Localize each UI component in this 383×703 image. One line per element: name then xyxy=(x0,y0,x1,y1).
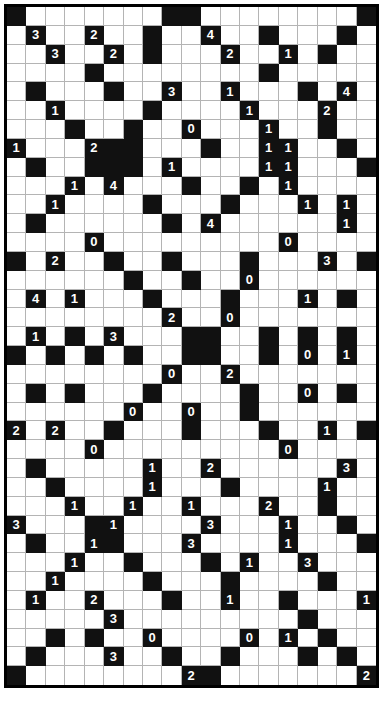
puzzle-empty-cell[interactable] xyxy=(143,403,162,422)
puzzle-empty-cell[interactable] xyxy=(240,572,259,591)
puzzle-empty-cell[interactable] xyxy=(143,534,162,553)
puzzle-empty-cell[interactable] xyxy=(182,459,201,478)
puzzle-empty-cell[interactable] xyxy=(298,233,317,252)
puzzle-empty-cell[interactable] xyxy=(201,572,220,591)
puzzle-clue-cell[interactable]: 2 xyxy=(85,591,104,610)
puzzle-empty-cell[interactable] xyxy=(221,327,240,346)
puzzle-empty-cell[interactable] xyxy=(162,497,181,516)
puzzle-empty-cell[interactable] xyxy=(85,214,104,233)
puzzle-clue-cell[interactable]: 0 xyxy=(298,346,317,365)
puzzle-empty-cell[interactable] xyxy=(65,214,84,233)
puzzle-empty-cell[interactable] xyxy=(337,177,356,196)
puzzle-empty-cell[interactable] xyxy=(124,177,143,196)
puzzle-empty-cell[interactable] xyxy=(104,271,123,290)
puzzle-empty-cell[interactable] xyxy=(279,195,298,214)
puzzle-filled-cell[interactable] xyxy=(221,290,240,309)
puzzle-clue-cell[interactable]: 1 xyxy=(85,534,104,553)
puzzle-empty-cell[interactable] xyxy=(357,26,376,45)
puzzle-empty-cell[interactable] xyxy=(259,233,278,252)
puzzle-empty-cell[interactable] xyxy=(85,384,104,403)
puzzle-clue-cell[interactable]: 1 xyxy=(357,591,376,610)
puzzle-filled-cell[interactable] xyxy=(318,45,337,64)
puzzle-empty-cell[interactable] xyxy=(26,101,45,120)
puzzle-filled-cell[interactable] xyxy=(162,214,181,233)
puzzle-empty-cell[interactable] xyxy=(7,327,26,346)
puzzle-empty-cell[interactable] xyxy=(318,177,337,196)
puzzle-filled-cell[interactable] xyxy=(298,82,317,101)
puzzle-empty-cell[interactable] xyxy=(104,346,123,365)
puzzle-empty-cell[interactable] xyxy=(46,139,65,158)
puzzle-filled-cell[interactable] xyxy=(26,214,45,233)
puzzle-empty-cell[interactable] xyxy=(357,365,376,384)
puzzle-empty-cell[interactable] xyxy=(65,101,84,120)
puzzle-clue-cell[interactable]: 1 xyxy=(65,497,84,516)
puzzle-empty-cell[interactable] xyxy=(162,534,181,553)
puzzle-empty-cell[interactable] xyxy=(7,271,26,290)
puzzle-empty-cell[interactable] xyxy=(65,139,84,158)
puzzle-empty-cell[interactable] xyxy=(259,666,278,685)
puzzle-empty-cell[interactable] xyxy=(201,82,220,101)
puzzle-empty-cell[interactable] xyxy=(337,572,356,591)
puzzle-filled-cell[interactable] xyxy=(337,647,356,666)
puzzle-empty-cell[interactable] xyxy=(240,233,259,252)
puzzle-filled-cell[interactable] xyxy=(221,195,240,214)
puzzle-clue-cell[interactable]: 2 xyxy=(85,139,104,158)
puzzle-empty-cell[interactable] xyxy=(143,497,162,516)
puzzle-empty-cell[interactable] xyxy=(143,7,162,26)
puzzle-empty-cell[interactable] xyxy=(65,534,84,553)
puzzle-empty-cell[interactable] xyxy=(104,553,123,572)
puzzle-empty-cell[interactable] xyxy=(46,177,65,196)
puzzle-empty-cell[interactable] xyxy=(7,610,26,629)
puzzle-filled-cell[interactable] xyxy=(65,327,84,346)
puzzle-empty-cell[interactable] xyxy=(279,553,298,572)
puzzle-empty-cell[interactable] xyxy=(240,7,259,26)
puzzle-empty-cell[interactable] xyxy=(124,516,143,535)
puzzle-empty-cell[interactable] xyxy=(7,195,26,214)
puzzle-clue-cell[interactable]: 0 xyxy=(124,403,143,422)
puzzle-filled-cell[interactable] xyxy=(124,120,143,139)
puzzle-empty-cell[interactable] xyxy=(279,459,298,478)
puzzle-empty-cell[interactable] xyxy=(104,101,123,120)
puzzle-empty-cell[interactable] xyxy=(357,478,376,497)
puzzle-empty-cell[interactable] xyxy=(7,26,26,45)
puzzle-empty-cell[interactable] xyxy=(337,233,356,252)
puzzle-empty-cell[interactable] xyxy=(85,327,104,346)
puzzle-empty-cell[interactable] xyxy=(26,666,45,685)
puzzle-empty-cell[interactable] xyxy=(259,516,278,535)
puzzle-clue-cell[interactable]: 0 xyxy=(162,365,181,384)
puzzle-empty-cell[interactable] xyxy=(318,327,337,346)
puzzle-clue-cell[interactable]: 1 xyxy=(259,139,278,158)
puzzle-empty-cell[interactable] xyxy=(279,308,298,327)
puzzle-empty-cell[interactable] xyxy=(221,629,240,648)
puzzle-empty-cell[interactable] xyxy=(65,403,84,422)
puzzle-empty-cell[interactable] xyxy=(337,101,356,120)
puzzle-empty-cell[interactable] xyxy=(26,346,45,365)
puzzle-filled-cell[interactable] xyxy=(357,421,376,440)
puzzle-empty-cell[interactable] xyxy=(182,516,201,535)
puzzle-empty-cell[interactable] xyxy=(124,365,143,384)
puzzle-empty-cell[interactable] xyxy=(221,516,240,535)
puzzle-empty-cell[interactable] xyxy=(298,497,317,516)
puzzle-empty-cell[interactable] xyxy=(240,82,259,101)
puzzle-empty-cell[interactable] xyxy=(298,64,317,83)
puzzle-empty-cell[interactable] xyxy=(85,365,104,384)
puzzle-empty-cell[interactable] xyxy=(162,346,181,365)
puzzle-empty-cell[interactable] xyxy=(259,308,278,327)
puzzle-empty-cell[interactable] xyxy=(279,666,298,685)
puzzle-clue-cell[interactable]: 2 xyxy=(46,252,65,271)
puzzle-filled-cell[interactable] xyxy=(65,384,84,403)
puzzle-empty-cell[interactable] xyxy=(124,101,143,120)
puzzle-empty-cell[interactable] xyxy=(46,82,65,101)
puzzle-empty-cell[interactable] xyxy=(318,516,337,535)
puzzle-empty-cell[interactable] xyxy=(104,233,123,252)
puzzle-empty-cell[interactable] xyxy=(46,158,65,177)
puzzle-empty-cell[interactable] xyxy=(318,26,337,45)
puzzle-clue-cell[interactable]: 1 xyxy=(221,591,240,610)
puzzle-empty-cell[interactable] xyxy=(7,440,26,459)
puzzle-filled-cell[interactable] xyxy=(318,572,337,591)
puzzle-empty-cell[interactable] xyxy=(143,308,162,327)
puzzle-empty-cell[interactable] xyxy=(143,591,162,610)
puzzle-clue-cell[interactable]: 2 xyxy=(162,308,181,327)
puzzle-filled-cell[interactable] xyxy=(104,534,123,553)
puzzle-empty-cell[interactable] xyxy=(104,572,123,591)
